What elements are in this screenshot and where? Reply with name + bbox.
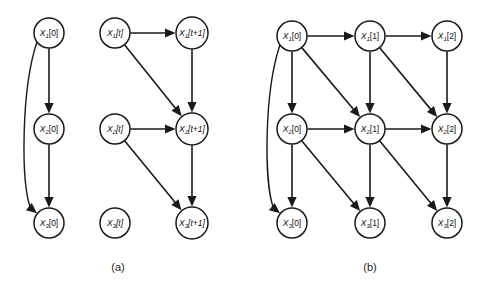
edge-arrowhead <box>344 124 355 133</box>
edge-arrowhead <box>421 124 432 133</box>
edge-b_x1_0-to-b_x2_0 <box>287 52 296 114</box>
nodes-layer: X1[0]X2[0]X3[0]X1[t]X2[t]X3[t]X1[t+1]X2[… <box>34 17 462 239</box>
edge-arrowhead <box>165 28 176 37</box>
node-time-index: [2] <box>447 31 456 41</box>
edge-arrowhead <box>26 203 37 213</box>
edge-arrowhead <box>44 103 53 114</box>
node-label: X2[2] <box>437 124 456 135</box>
edge-b_x2_0-to-b_x2_1 <box>308 124 355 133</box>
dbn-diagram-canvas: X1[0]X2[0]X3[0]X1[t]X2[t]X3[t]X1[t+1]X2[… <box>0 0 484 290</box>
edge-shaft <box>302 48 354 110</box>
edge-arrowhead <box>365 197 374 208</box>
node-label: X3[t+1] <box>178 218 205 229</box>
node-a_x2_t1[interactable]: X2[t+1] <box>176 113 208 145</box>
edge-shaft <box>125 45 176 109</box>
node-label: X2[0] <box>39 124 58 135</box>
edge-arrowhead <box>287 197 296 208</box>
node-time-index: [t] <box>115 218 124 228</box>
node-time-index: [t+1] <box>187 28 205 38</box>
edge-shaft <box>125 141 176 203</box>
node-label: X1[2] <box>437 31 456 42</box>
edges-layer <box>24 28 452 213</box>
edge-b_x1_0-to-b_x1_1 <box>308 31 355 40</box>
node-a_x1_0[interactable]: X1[0] <box>34 18 64 48</box>
node-time-index: [0] <box>49 124 58 134</box>
edge-a_x2_0-to-a_x3_0 <box>44 145 53 208</box>
edge-b_x1_1-to-b_x2_1 <box>365 52 374 114</box>
node-b_x2_2[interactable]: X2[2] <box>432 114 462 144</box>
node-time-index: [0] <box>292 124 301 134</box>
node-label: X3[0] <box>282 218 301 229</box>
edge-b_x1_1-to-b_x2_2 <box>380 48 437 117</box>
edge-b_x2_1-to-b_x3_1 <box>365 145 374 208</box>
node-label: X1[0] <box>282 31 301 42</box>
edge-arrowhead <box>365 103 374 114</box>
panel-caption-a: (a) <box>111 261 124 273</box>
node-time-index: [1] <box>370 31 379 41</box>
edge-a_x2_t-to-a_x2_t1 <box>131 124 176 133</box>
node-a_x3_t[interactable]: X3[t] <box>100 208 130 238</box>
edge-arrowhead <box>421 31 432 40</box>
node-time-index: [2] <box>447 218 456 228</box>
node-label: X3[2] <box>437 218 456 229</box>
edge-a_x2_t-to-a_x3_t1 <box>125 141 182 210</box>
edge-shaft <box>380 48 431 110</box>
edge-b_x2_1-to-b_x2_2 <box>386 124 432 133</box>
node-label: X3[0] <box>39 218 58 229</box>
node-a_x3_t1[interactable]: X3[t+1] <box>176 207 208 239</box>
edge-arrowhead <box>172 105 182 116</box>
panel-caption-b: (b) <box>363 261 376 273</box>
node-a_x3_0[interactable]: X3[0] <box>34 208 64 238</box>
node-time-index: [1] <box>370 124 379 134</box>
edge-arrowhead <box>287 103 296 114</box>
edge-a_x1_0-to-a_x2_0 <box>44 49 53 114</box>
node-label: X2[0] <box>282 124 301 135</box>
figure-root: X1[0]X2[0]X3[0]X1[t]X2[t]X3[t]X1[t+1]X2[… <box>0 0 484 290</box>
node-label: X1[t+1] <box>178 28 205 39</box>
node-b_x1_1[interactable]: X1[1] <box>355 21 385 51</box>
edge-shaft <box>302 141 354 204</box>
node-a_x2_0[interactable]: X2[0] <box>34 114 64 144</box>
edge-arrowhead <box>187 102 196 113</box>
node-b_x3_2[interactable]: X3[2] <box>432 208 462 238</box>
node-a_x1_t1[interactable]: X1[t+1] <box>176 17 208 49</box>
node-b_x3_0[interactable]: X3[0] <box>277 208 307 238</box>
captions-layer: (a)(b) <box>111 261 376 273</box>
node-b_x2_1[interactable]: X2[1] <box>355 114 385 144</box>
node-a_x2_t[interactable]: X2[t] <box>100 114 130 144</box>
node-time-index: [0] <box>292 218 301 228</box>
node-b_x3_1[interactable]: X3[1] <box>355 208 385 238</box>
edge-b_x1_0-to-b_x2_1 <box>302 48 360 117</box>
node-label: X1[1] <box>360 31 379 42</box>
node-a_x1_t[interactable]: X1[t] <box>100 18 130 48</box>
node-time-index: [1] <box>370 218 379 228</box>
edge-arrowhead <box>442 197 451 208</box>
edge-b_x1_2-to-b_x2_2 <box>442 52 451 114</box>
node-time-index: [t] <box>115 124 124 134</box>
node-time-index: [t] <box>115 28 124 38</box>
edge-b_x2_0-to-b_x3_1 <box>302 141 360 211</box>
edge-arrowhead <box>165 124 176 133</box>
edge-b_x2_1-to-b_x3_2 <box>380 141 437 211</box>
node-time-index: [2] <box>447 124 456 134</box>
edge-arrowhead <box>344 31 355 40</box>
node-time-index: [t+1] <box>187 124 205 134</box>
node-label: X3[1] <box>360 218 379 229</box>
node-label: X2[1] <box>360 124 379 135</box>
edge-a_x1_t-to-a_x2_t1 <box>125 45 182 116</box>
edge-arrowhead <box>442 103 451 114</box>
node-time-index: [0] <box>49 218 58 228</box>
node-time-index: [0] <box>49 28 58 38</box>
node-label: X1[0] <box>39 28 58 39</box>
node-time-index: [0] <box>292 31 301 41</box>
edge-b_x1_1-to-b_x1_2 <box>386 31 432 40</box>
node-label: X2[t+1] <box>178 124 205 135</box>
edge-a_x1_t-to-a_x1_t1 <box>131 28 176 37</box>
edge-arrowhead <box>44 197 53 208</box>
node-b_x1_0[interactable]: X1[0] <box>277 21 307 51</box>
node-b_x1_2[interactable]: X1[2] <box>432 21 462 51</box>
edge-arrowhead <box>269 203 280 213</box>
edge-shaft <box>380 141 432 204</box>
node-b_x2_0[interactable]: X2[0] <box>277 114 307 144</box>
edge-a_x1_t1-to-a_x2_t1 <box>187 50 196 113</box>
